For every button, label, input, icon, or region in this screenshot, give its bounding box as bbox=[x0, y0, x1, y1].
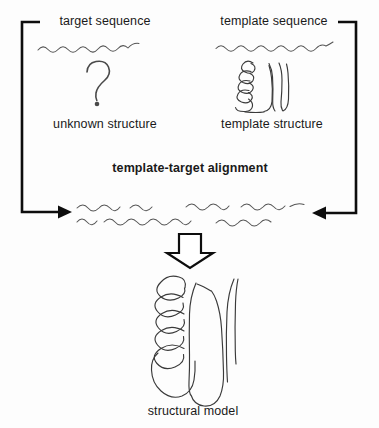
template-structure-label: template structure bbox=[221, 118, 323, 131]
down-block-arrow-icon bbox=[167, 234, 213, 268]
homology-modeling-diagram: target sequence template sequence unknow… bbox=[0, 0, 379, 428]
question-mark-icon bbox=[87, 61, 109, 106]
protein-fold-sketch-icon bbox=[236, 61, 289, 112]
wavy-line-icon-target bbox=[38, 43, 139, 52]
template-sequence-label: template sequence bbox=[220, 15, 327, 28]
protein-fold-model-icon bbox=[151, 276, 238, 406]
structural-model-label: structural model bbox=[148, 405, 239, 418]
aligned-sequences-icon bbox=[77, 204, 304, 226]
diagram-canvas bbox=[0, 0, 379, 428]
target-sequence-label: target sequence bbox=[59, 15, 150, 28]
template-target-alignment-label: template-target alignment bbox=[112, 162, 267, 175]
unknown-structure-label: unknown structure bbox=[53, 118, 157, 131]
wavy-line-icon-template bbox=[216, 42, 333, 51]
